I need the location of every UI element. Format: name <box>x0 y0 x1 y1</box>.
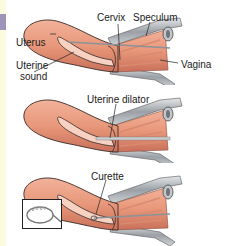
label-uterus: Uterus <box>16 37 45 48</box>
label-uterine-sound-1: Uterine <box>16 60 48 71</box>
label-speculum: Speculum <box>133 12 177 23</box>
label-curette: Curette <box>91 171 124 182</box>
panel-uterine-dilator: Uterine dilator <box>0 85 225 163</box>
label-uterine-dilator: Uterine dilator <box>87 94 149 105</box>
curette-tip-icon <box>23 200 61 228</box>
label-uterine-sound-2: sound <box>20 71 47 82</box>
curette-inset-box <box>22 199 62 229</box>
panel-uterine-sound: Uterus Uterine sound Cervix Speculum Vag… <box>0 0 225 85</box>
label-cervix: Cervix <box>97 12 125 23</box>
panel-curette: Curette <box>0 163 225 246</box>
label-vagina: Vagina <box>181 59 211 70</box>
